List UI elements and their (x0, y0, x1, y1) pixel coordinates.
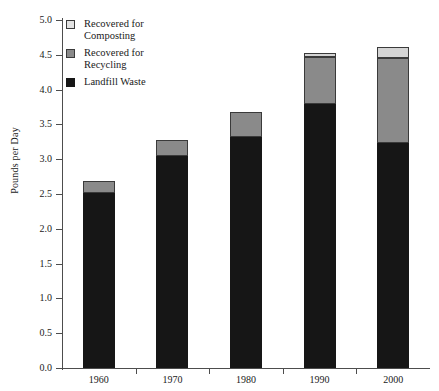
legend-swatch-icon (66, 78, 75, 87)
bar-2000 (377, 20, 409, 368)
x-tick-mark (356, 368, 357, 374)
bar-segment-recovered-recycling-1990 (304, 57, 336, 104)
chart-legend: Recovered for CompostingRecovered for Re… (66, 18, 246, 93)
bar-segment-landfill-waste-1960 (83, 193, 115, 368)
bar-1990 (304, 20, 336, 368)
bar-segment-recovered-recycling-1980 (230, 112, 262, 137)
x-tick-mark (283, 368, 284, 374)
y-axis-line (62, 18, 63, 370)
x-tick-mark (209, 368, 210, 374)
y-tick-mark (56, 90, 62, 91)
x-tick-mark (136, 368, 137, 374)
bar-segment-recovered-recycling-1970 (156, 140, 188, 155)
bar-segment-landfill-waste-2000 (377, 143, 409, 368)
legend-swatch-icon (66, 20, 75, 29)
y-tick-mark (56, 333, 62, 334)
y-tick-label: 3.5 (16, 119, 52, 129)
y-tick-label: 5.0 (16, 15, 52, 25)
legend-item: Landfill Waste (66, 76, 246, 88)
x-tick-label: 2000 (363, 375, 423, 385)
bar-segment-recovered-composting-1990 (304, 53, 336, 57)
legend-label: Recovered for Recycling (84, 47, 246, 71)
y-tick-label: 1.5 (16, 259, 52, 269)
legend-label: Landfill Waste (84, 76, 246, 88)
y-tick-label: 1.0 (16, 293, 52, 303)
y-tick-label: 0.5 (16, 328, 52, 338)
bar-segment-landfill-waste-1980 (230, 137, 262, 368)
legend-item: Recovered for Recycling (66, 47, 246, 71)
x-tick-label: 1970 (142, 375, 202, 385)
y-tick-mark (56, 264, 62, 265)
legend-swatch-icon (66, 49, 75, 58)
y-tick-mark (56, 229, 62, 230)
legend-item: Recovered for Composting (66, 18, 246, 42)
x-tick-label: 1990 (290, 375, 350, 385)
bar-segment-recovered-recycling-1960 (83, 181, 115, 194)
y-tick-label: 2.5 (16, 189, 52, 199)
y-tick-label: 4.5 (16, 50, 52, 60)
legend-label: Recovered for Composting (84, 18, 246, 42)
y-tick-mark (56, 124, 62, 125)
x-tick-label: 1980 (216, 375, 276, 385)
y-tick-mark (56, 368, 62, 369)
y-tick-mark (56, 20, 62, 21)
y-tick-label: 3.0 (16, 154, 52, 164)
x-axis-line (62, 368, 430, 369)
y-tick-mark (56, 55, 62, 56)
y-tick-label: 4.0 (16, 85, 52, 95)
y-tick-mark (56, 159, 62, 160)
y-tick-label: 0.0 (16, 363, 52, 373)
x-tick-label: 1960 (69, 375, 129, 385)
y-tick-mark (56, 194, 62, 195)
bar-segment-recovered-composting-2000 (377, 47, 409, 58)
bar-segment-landfill-waste-1990 (304, 104, 336, 368)
y-tick-label: 2.0 (16, 224, 52, 234)
stacked-bar-chart: Pounds per Day 5.04.54.03.53.02.52.01.51… (0, 0, 439, 391)
y-tick-mark (56, 298, 62, 299)
bar-segment-recovered-recycling-2000 (377, 58, 409, 143)
bar-segment-landfill-waste-1970 (156, 156, 188, 368)
